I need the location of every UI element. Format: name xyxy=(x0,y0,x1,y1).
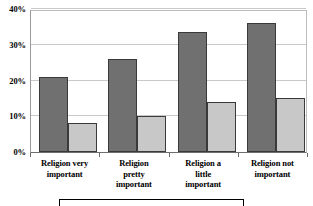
bar-group xyxy=(31,11,100,152)
bar[interactable] xyxy=(68,123,97,152)
x-category-label-line: important xyxy=(238,169,307,180)
bar[interactable] xyxy=(137,116,166,152)
x-category-label-line: important xyxy=(30,169,99,180)
bar[interactable] xyxy=(207,102,236,152)
x-category-label: Religion alittleimportant xyxy=(169,158,238,190)
x-axis-tick xyxy=(30,153,31,157)
gridline xyxy=(31,8,306,9)
x-category-label-line: important xyxy=(99,179,168,190)
x-category-label: Religion notimportant xyxy=(238,158,307,179)
bar-group xyxy=(239,11,308,152)
y-tick-label: 40% xyxy=(9,5,26,14)
y-axis: 40%30%20%10%0% xyxy=(0,0,28,155)
x-category-label-line: important xyxy=(169,179,238,190)
y-tick-label: 10% xyxy=(9,112,26,121)
bar[interactable] xyxy=(247,23,276,152)
bar-group xyxy=(100,11,169,152)
x-axis-tick xyxy=(99,153,100,157)
x-category-label-line: pretty xyxy=(99,169,168,180)
x-axis-tick xyxy=(169,153,170,157)
x-category-label: Religionprettyimportant xyxy=(99,158,168,190)
x-category-label-line: Religion xyxy=(99,158,168,169)
x-axis-tick xyxy=(307,153,308,157)
y-tick-label: 0% xyxy=(13,148,26,157)
chart-legend xyxy=(59,199,244,206)
x-category-label-line: Religion a xyxy=(169,158,238,169)
bar[interactable] xyxy=(178,32,207,152)
bar[interactable] xyxy=(39,77,68,152)
x-axis-labels: Religion veryimportantReligionprettyimpo… xyxy=(30,158,307,196)
x-axis-tick xyxy=(238,153,239,157)
x-category-label-line: Religion not xyxy=(238,158,307,169)
bar-group xyxy=(170,11,239,152)
bar[interactable] xyxy=(108,59,137,152)
x-category-label: Religion veryimportant xyxy=(30,158,99,179)
plot-area xyxy=(30,10,307,153)
x-category-label-line: Religion very xyxy=(30,158,99,169)
bar-chart: 40%30%20%10%0% Religion veryimportantRel… xyxy=(0,0,313,206)
y-tick-label: 20% xyxy=(9,77,26,86)
bars-layer xyxy=(31,11,306,152)
x-category-label-line: little xyxy=(169,169,238,180)
y-tick-label: 30% xyxy=(9,41,26,50)
bar[interactable] xyxy=(276,98,305,152)
